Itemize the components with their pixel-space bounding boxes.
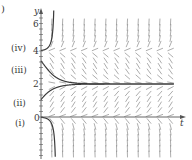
panel-label-fragment: ) <box>1 4 5 14</box>
slope-mark <box>103 75 108 79</box>
slope-mark <box>104 63 108 69</box>
slope-mark <box>50 63 54 69</box>
slope-mark <box>125 118 129 123</box>
slope-mark <box>93 58 97 64</box>
slope-mark <box>115 96 119 102</box>
slope-mark <box>135 82 142 83</box>
y-tick-label-2: 2 <box>33 80 39 89</box>
y-axis-label: y <box>34 7 39 16</box>
slope-mark <box>72 41 75 47</box>
slope-mark <box>147 96 151 102</box>
slope-mark <box>126 96 130 102</box>
slope-mark <box>158 118 162 123</box>
slope-mark <box>136 53 141 57</box>
slope-mark <box>157 53 162 57</box>
slope-mark <box>147 58 151 64</box>
slope-mark <box>158 69 162 75</box>
slope-mark <box>146 82 153 83</box>
slope-mark <box>105 41 108 47</box>
slope-mark <box>126 58 130 64</box>
slope-mark <box>115 69 119 75</box>
slope-mark <box>60 118 64 123</box>
slope-mark <box>169 58 173 64</box>
slope-mark <box>147 69 151 75</box>
slope-mark <box>82 118 86 123</box>
slope-mark <box>114 86 120 89</box>
solution-label-i: (i) <box>15 119 25 128</box>
slope-mark <box>72 96 76 102</box>
solution-label-iii: (iii) <box>11 66 27 75</box>
slope-mark <box>146 86 152 89</box>
slope-mark <box>71 118 75 123</box>
slope-mark <box>72 58 76 64</box>
slope-mark <box>104 118 108 123</box>
slope-mark <box>48 82 55 83</box>
y-tick-label-0: 0 <box>34 114 40 123</box>
slope-mark <box>114 53 119 57</box>
slope-mark <box>167 114 173 116</box>
slope-mark <box>103 86 109 89</box>
slope-mark <box>125 91 129 96</box>
slope-mark <box>137 41 140 47</box>
slope-mark <box>126 63 130 69</box>
slope-mark <box>82 69 86 75</box>
slope-mark <box>92 114 98 116</box>
slope-mark <box>82 58 86 64</box>
slope-mark <box>126 102 130 108</box>
slope-mark <box>146 75 151 79</box>
slope-mark <box>157 48 163 51</box>
slope-field-plot <box>0 0 192 160</box>
slope-mark <box>125 75 130 79</box>
slope-mark <box>59 48 65 51</box>
slope-mark <box>114 118 118 123</box>
slope-mark <box>60 53 65 57</box>
slope-mark <box>135 48 141 51</box>
slope-mark <box>82 53 87 57</box>
slope-mark <box>136 107 140 112</box>
slope-mark <box>93 63 97 69</box>
slope-mark <box>136 75 141 79</box>
slope-mark <box>124 82 131 83</box>
slope-mark <box>148 41 151 47</box>
slope-mark <box>50 58 54 64</box>
slope-mark <box>147 118 151 123</box>
slope-mark <box>61 96 65 102</box>
slope-mark <box>104 102 108 108</box>
slope-mark <box>104 69 108 75</box>
slope-mark <box>158 107 162 112</box>
slope-mark <box>83 41 86 47</box>
slope-mark <box>125 69 129 75</box>
slope-mark <box>114 75 119 79</box>
slope-mark <box>93 102 97 108</box>
slope-mark <box>125 107 129 112</box>
slope-mark <box>70 114 76 116</box>
slope-mark <box>158 91 163 96</box>
slope-mark <box>103 53 108 57</box>
slope-mark <box>93 69 97 75</box>
slope-mark <box>113 48 119 51</box>
slope-mark <box>50 107 54 112</box>
slope-mark <box>115 63 119 69</box>
solution-label-ii: (ii) <box>13 99 26 108</box>
slope-mark <box>168 118 172 123</box>
slope-mark <box>158 63 162 69</box>
slope-mark <box>81 86 87 89</box>
slope-mark <box>93 91 98 96</box>
slope-mark <box>147 107 151 112</box>
slope-mark <box>61 107 65 112</box>
slope-mark <box>136 63 140 69</box>
slope-mark <box>156 82 163 83</box>
slope-mark <box>115 102 119 108</box>
slope-mark <box>70 48 76 51</box>
slope-mark <box>60 91 65 96</box>
slope-mark <box>92 86 98 89</box>
slope-mark <box>94 41 97 47</box>
slope-mark <box>61 102 65 108</box>
slope-mark <box>147 102 151 108</box>
slope-mark <box>49 114 55 116</box>
slope-field-marks <box>48 19 173 158</box>
slope-mark <box>59 114 65 116</box>
slope-mark <box>157 86 163 89</box>
slope-mark <box>136 91 141 96</box>
slope-mark <box>136 58 140 64</box>
